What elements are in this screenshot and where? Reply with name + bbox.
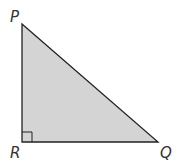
vertex-label-q: Q [160, 144, 172, 162]
vertex-label-r: R [10, 144, 20, 162]
triangle-pqr [22, 24, 158, 142]
triangle-svg: P Q R [0, 0, 179, 167]
vertex-label-p: P [10, 8, 20, 26]
triangle-diagram: P Q R [0, 0, 179, 167]
